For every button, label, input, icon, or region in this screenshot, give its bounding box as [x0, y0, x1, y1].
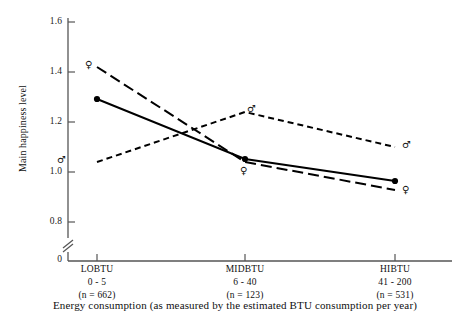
x-group-hibtu-name: HIBTU: [340, 263, 450, 276]
female-symbol-hibtu: ♀: [402, 185, 409, 195]
series-total-point-lobtu: [94, 96, 100, 102]
y-axis-label: Main happiness level: [17, 49, 28, 209]
x-group-lobtu-range: 0 - 5: [42, 276, 152, 289]
x-group-midbtu-name: MIDBTU: [190, 263, 300, 276]
male-symbol-hibtu: ♂: [402, 140, 411, 150]
y-tick-label-1-0: 1.0: [36, 166, 62, 176]
series-total-point-hibtu: [392, 178, 398, 184]
x-group-hibtu-range: 41 - 200: [340, 276, 450, 289]
y-tick-label-0-8: 0.8: [36, 216, 62, 226]
x-group-lobtu-name: LOBTU: [42, 263, 152, 276]
axis-break-mark-lower: [63, 244, 73, 252]
x-group-hibtu: HIBTU 41 - 200 (n = 531): [340, 263, 450, 302]
x-group-midbtu: MIDBTU 6 - 40 (n = 123): [190, 263, 300, 302]
series-total-point-midbtu: [242, 156, 248, 162]
series-male-line: [97, 112, 395, 162]
x-axis-caption: Energy consumption (as measured by the e…: [0, 299, 470, 311]
y-tick-label-1-2: 1.2: [36, 116, 62, 126]
female-symbol-lobtu: ♀: [85, 60, 92, 70]
x-group-lobtu: LOBTU 0 - 5 (n = 662): [42, 263, 152, 302]
y-tick-label-1-6: 1.6: [36, 16, 62, 26]
male-symbol-midbtu: ♂: [247, 104, 256, 114]
x-group-midbtu-range: 6 - 40: [190, 276, 300, 289]
chart-figure: ♀ ♂ ♂ ♀ ♂ ♀ 1.6 1.4 1.2 1.0 0.8 0 LOBTU …: [0, 0, 470, 321]
y-tick-label-1-4: 1.4: [36, 66, 62, 76]
female-symbol-midbtu: ♀: [240, 166, 247, 176]
male-symbol-lobtu: ♂: [57, 155, 66, 165]
axis-break-mark-upper: [63, 240, 73, 248]
